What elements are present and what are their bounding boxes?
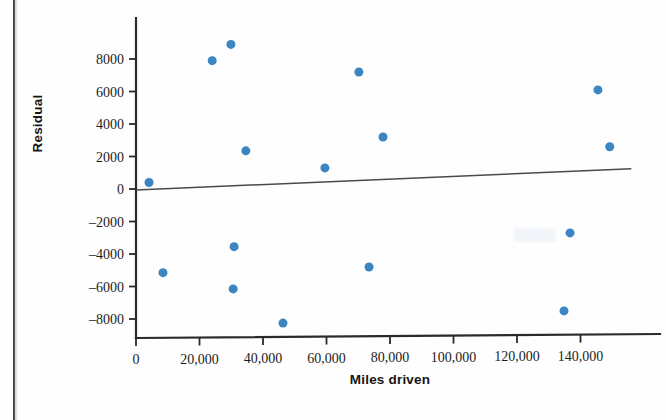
x-tick-label: 80,000 [371, 350, 410, 365]
data-point [145, 178, 154, 187]
data-point [593, 85, 602, 94]
y-tick-label: 4000 [96, 117, 124, 132]
x-axis-line [136, 334, 660, 338]
y-tick-label: –4000 [88, 247, 124, 262]
y-tick-label: –8000 [88, 312, 124, 327]
data-point [320, 163, 329, 172]
scatter-plot-canvas: –8000–6000–4000–200002000400060008000020… [0, 0, 666, 420]
x-tick-label: 0 [133, 352, 140, 367]
y-tick-label: –2000 [88, 215, 124, 230]
residual-plot-figure: –8000–6000–4000–200002000400060008000020… [0, 0, 666, 420]
data-point [226, 40, 235, 49]
x-tick-label: 20,000 [180, 352, 219, 367]
x-tick-label: 40,000 [244, 351, 283, 366]
data-point [605, 142, 614, 151]
y-tick-label: –6000 [88, 280, 124, 295]
x-tick-label: 140,000 [558, 349, 604, 364]
residual-zero-line [136, 169, 631, 190]
x-tick-label: 100,000 [431, 350, 477, 365]
data-point [559, 306, 568, 315]
x-tick-label: 120,000 [494, 349, 540, 364]
y-tick-label: 6000 [96, 85, 124, 100]
y-axis-title: Residual [30, 135, 45, 153]
data-point [241, 146, 250, 155]
data-point [354, 68, 363, 77]
data-point [365, 263, 374, 272]
x-tick-label: 60,000 [307, 351, 346, 366]
data-point [379, 133, 388, 142]
data-point [208, 56, 217, 65]
data-point [230, 242, 239, 251]
y-tick-label: 0 [117, 182, 124, 197]
data-point [279, 319, 288, 328]
data-point [566, 228, 575, 237]
y-tick-label: 8000 [96, 52, 124, 67]
y-tick-label: 2000 [96, 150, 124, 165]
data-point [229, 284, 238, 293]
x-axis-title: Miles driven [300, 372, 480, 387]
data-point [158, 268, 167, 277]
